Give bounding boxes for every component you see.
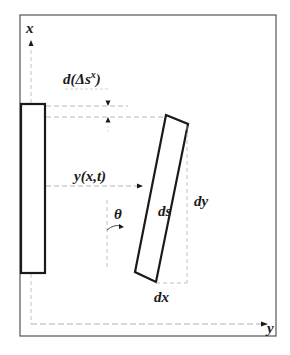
outer-frame — [20, 15, 276, 336]
delta-s-text: d(Δs — [63, 71, 91, 88]
dx-label: dx — [154, 289, 170, 305]
ds-label: ds — [158, 203, 172, 219]
arrow-up-icon — [106, 117, 111, 123]
displacement-label: y(x,t) — [72, 168, 106, 185]
delta-s-close: ) — [94, 71, 101, 88]
theta-arrow-icon — [119, 224, 124, 229]
deformed-beam-element — [135, 115, 188, 282]
y-axis-label: y — [265, 320, 274, 336]
dy-label: dy — [194, 193, 209, 209]
displacement-arrow-icon — [137, 184, 143, 189]
arrow-down-icon — [106, 101, 111, 107]
theta-label: θ — [114, 206, 122, 222]
beam-element-diagram: x y d(Δsx) y(x,t) θ ds dy dx — [0, 0, 290, 355]
x-axis-arrow-icon — [29, 40, 34, 46]
x-axis-label: x — [25, 20, 34, 36]
theta-arc — [107, 226, 121, 231]
delta-s-label: d(Δsx) — [63, 69, 101, 88]
reference-beam — [21, 104, 45, 273]
